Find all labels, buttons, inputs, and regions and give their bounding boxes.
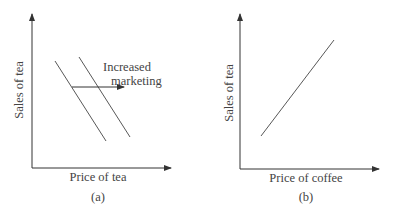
y-axis-label: Sales of tea — [222, 64, 236, 122]
panel-caption: (a) — [91, 190, 105, 204]
annotation-line-1: Increased — [103, 60, 152, 74]
panel-caption: (b) — [299, 190, 314, 204]
panel-b: Price of coffee Sales of tea (b) — [222, 14, 379, 204]
panel-a: Increased marketing Price of tea Sales o… — [12, 14, 171, 204]
x-axis-label: Price of coffee — [269, 171, 343, 185]
demand-curve-original — [55, 61, 106, 141]
annotation-line-2: marketing — [111, 74, 162, 88]
diagram: Increased marketing Price of tea Sales o… — [0, 0, 393, 214]
x-axis-label: Price of tea — [70, 170, 127, 184]
y-axis-label: Sales of tea — [12, 61, 26, 119]
relationship-line — [261, 40, 334, 136]
